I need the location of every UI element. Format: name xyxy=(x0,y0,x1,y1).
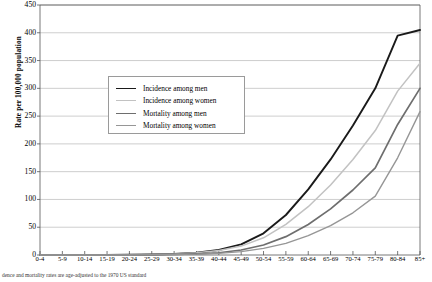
legend-item: Mortality among women xyxy=(109,120,244,133)
legend-label: Mortality among men xyxy=(143,110,207,117)
legend-swatch xyxy=(116,125,136,126)
chart-figure: Rate per 100,000 population 050100150200… xyxy=(0,0,432,282)
legend-label: Incidence among men xyxy=(143,85,207,92)
legend-item: Mortality among men xyxy=(109,107,244,120)
legend-item: Incidence among men xyxy=(109,82,244,95)
legend-label: Incidence among women xyxy=(143,97,216,104)
chart-footnote: dence and mortality rates are age-adjust… xyxy=(2,273,146,279)
legend-label: Mortality among women xyxy=(143,122,216,129)
legend-swatch xyxy=(116,100,136,101)
legend-swatch xyxy=(116,88,136,89)
legend-swatch xyxy=(116,113,136,114)
legend-item: Incidence among women xyxy=(109,95,244,108)
chart-legend: Incidence among menIncidence among women… xyxy=(108,76,245,134)
series-line xyxy=(40,30,420,255)
plot-area xyxy=(0,0,432,282)
x-tick-label: 85+ xyxy=(406,256,432,263)
